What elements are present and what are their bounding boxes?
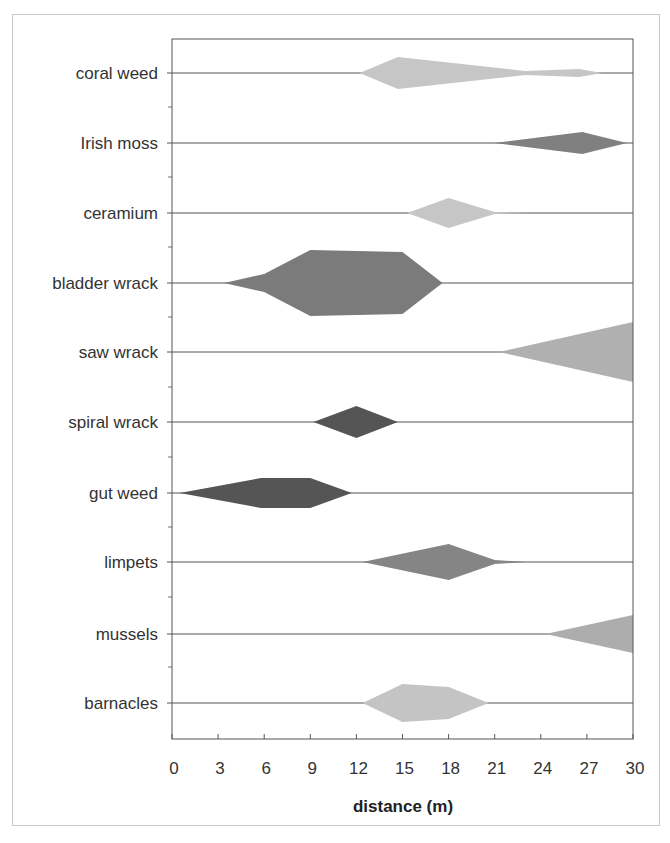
kite-mussels xyxy=(545,615,633,653)
kite-limpets xyxy=(363,544,526,580)
x-tick-label: 30 xyxy=(626,759,645,778)
x-tick-label: 21 xyxy=(487,759,506,778)
kite-chart: coral weedIrish mossceramiumbladder wrac… xyxy=(0,0,670,843)
x-tick-label: 12 xyxy=(349,759,368,778)
species-label: Irish moss xyxy=(81,134,158,153)
x-tick-label: 18 xyxy=(441,759,460,778)
species-label: gut weed xyxy=(89,484,158,503)
x-tick-label: 9 xyxy=(308,759,317,778)
x-tick-label: 24 xyxy=(533,759,552,778)
species-label: mussels xyxy=(96,625,158,644)
species-label: coral weed xyxy=(76,64,158,83)
x-axis-title: distance (m) xyxy=(353,797,453,816)
x-tick-label: 15 xyxy=(395,759,414,778)
x-tick-label: 27 xyxy=(579,759,598,778)
species-label: ceramium xyxy=(83,204,158,223)
kite-saw-wrack xyxy=(499,322,633,382)
species-label: saw wrack xyxy=(79,343,159,362)
species-label: spiral wrack xyxy=(68,413,158,432)
species-label: limpets xyxy=(104,553,158,572)
kite-barnacles xyxy=(363,684,489,722)
x-axis-ticks: 036912151821242730 xyxy=(169,734,644,778)
kite-spiral-wrack xyxy=(313,406,398,438)
species-label: bladder wrack xyxy=(52,274,158,293)
x-tick-label: 6 xyxy=(261,759,270,778)
x-tick-label: 3 xyxy=(215,759,224,778)
kite-coral-weed xyxy=(360,57,603,89)
kite-bladder-wrack xyxy=(224,250,442,316)
kite-ceramium xyxy=(407,198,525,228)
kite-gut-weed xyxy=(180,478,352,508)
x-tick-label: 0 xyxy=(169,759,178,778)
kite-irish-moss xyxy=(495,132,627,154)
species-label: barnacles xyxy=(84,694,158,713)
species-labels: coral weedIrish mossceramiumbladder wrac… xyxy=(52,64,158,713)
kite-layer xyxy=(172,57,633,722)
